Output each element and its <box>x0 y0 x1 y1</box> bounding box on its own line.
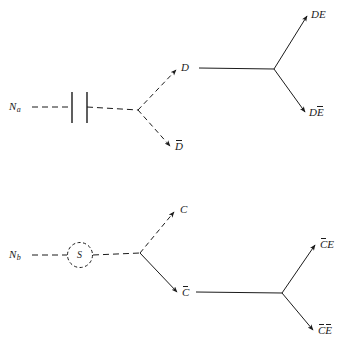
label-source-a: Na <box>9 101 21 114</box>
branch-b2-up-to-CbarE <box>282 245 315 293</box>
branch-a-up-to-D <box>138 70 176 110</box>
line-Cbar-to-vertex-b2 <box>196 292 282 293</box>
decay-diagram-figure: Na D D DE DE Nb S C C CE CE <box>0 0 355 358</box>
label-output-DEbar: DE <box>309 106 324 118</box>
label-product-D: D <box>181 62 189 73</box>
branch-b-up-to-C <box>140 212 174 253</box>
line-gate-to-vertex-b <box>93 253 140 255</box>
diagram-vector-layer <box>0 0 355 358</box>
diagram-b-lines <box>32 212 315 330</box>
branch-b-down-to-Cbar <box>140 253 177 292</box>
label-product-Cbar: C <box>182 286 189 298</box>
diagram-a-lines <box>32 16 307 146</box>
label-product-Dbar: D <box>175 140 183 152</box>
branch-a2-up-to-DE <box>274 16 307 69</box>
branch-b2-down-to-CbarEbar <box>282 293 313 330</box>
label-gate-s: S <box>77 250 82 260</box>
label-product-C: C <box>180 204 187 215</box>
branch-a-down-to-Dbar <box>138 110 170 146</box>
line-D-to-vertex-a2 <box>199 68 274 69</box>
line-gate-to-vertex-a <box>87 107 138 110</box>
branch-a2-down-to-DEbar <box>274 69 305 112</box>
label-output-CbarEbar: CE <box>318 324 332 336</box>
label-output-DE: DE <box>311 9 326 20</box>
label-output-CbarE: CE <box>320 238 334 250</box>
label-source-b: Nb <box>9 249 21 262</box>
